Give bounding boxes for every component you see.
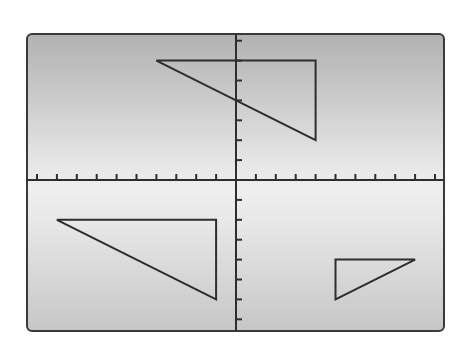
axes [27, 34, 444, 331]
triangle-bottom-left [57, 220, 216, 300]
triangle-bottom-right [336, 260, 416, 300]
coordinate-plane [0, 0, 465, 352]
